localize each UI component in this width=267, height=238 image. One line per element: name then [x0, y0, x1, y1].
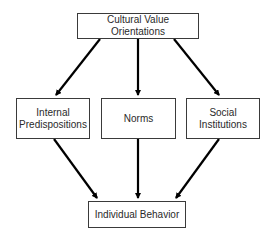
node-social-institutions: Social Institutions [186, 98, 260, 139]
node-label: Cultural Value Orientations [80, 14, 196, 38]
node-internal-predispositions: Internal Predispositions [16, 98, 90, 139]
node-label-line2: Institutions [199, 119, 247, 131]
node-cultural-value-orientations: Cultural Value Orientations [77, 13, 199, 39]
arrow-top-to-left [56, 39, 100, 95]
arrow-right-to-bottom [176, 139, 219, 198]
arrow-top-to-right [174, 39, 219, 95]
node-individual-behavior: Individual Behavior [88, 201, 186, 228]
node-label-line2: Predispositions [19, 119, 87, 131]
node-label-line1: Social [199, 107, 247, 119]
node-label-line1: Internal [19, 107, 87, 119]
node-norms: Norms [101, 98, 176, 139]
arrow-left-to-bottom [54, 139, 97, 198]
node-label: Norms [124, 113, 153, 125]
node-label: Individual Behavior [95, 209, 180, 221]
flow-diagram: Cultural Value Orientations Internal Pre… [0, 0, 267, 238]
